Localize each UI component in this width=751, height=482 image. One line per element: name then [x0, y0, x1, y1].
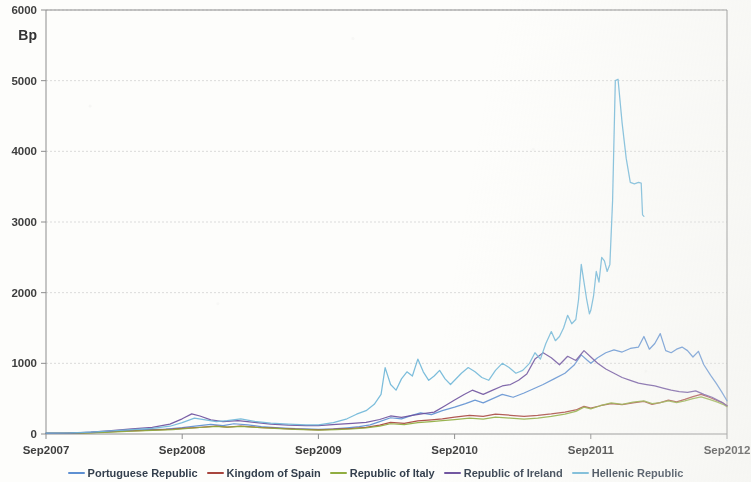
y-tick-label: 4000: [11, 145, 37, 157]
x-tick-label: Sep2010: [431, 444, 478, 456]
legend-color-swatch: [68, 472, 85, 475]
legend-item-label: Republic of Italy: [350, 467, 435, 479]
x-tick-label: Sep2011: [568, 444, 615, 456]
y-tick-label: 5000: [11, 75, 37, 87]
y-axis-unit-label: Bp: [18, 27, 37, 43]
legend-item-kingdom-of-spain[interactable]: Kingdom of Spain: [207, 467, 321, 479]
y-tick-label: 2000: [11, 287, 37, 299]
legend-item-portuguese-republic[interactable]: Portuguese Republic: [68, 467, 198, 479]
legend-item-label: Hellenic Republic: [592, 467, 684, 479]
y-tick-label: 0: [31, 428, 37, 440]
chart-plot-area: 0100020003000400050006000BpSep2007Sep200…: [0, 0, 751, 482]
legend-color-swatch: [207, 472, 224, 475]
sovereign-cds-spread-chart: 0100020003000400050006000BpSep2007Sep200…: [0, 0, 751, 482]
legend-item-label: Kingdom of Spain: [227, 467, 321, 479]
legend-item-label: Portuguese Republic: [88, 467, 198, 479]
y-tick-label: 3000: [11, 216, 37, 228]
chart-legend: Portuguese RepublicKingdom of SpainRepub…: [0, 467, 751, 479]
legend-item-label: Republic of Ireland: [464, 467, 563, 479]
x-tick-label: Sep2009: [295, 444, 342, 456]
legend-item-republic-of-ireland[interactable]: Republic of Ireland: [444, 467, 563, 479]
y-tick-label: 6000: [11, 4, 37, 16]
legend-item-republic-of-italy[interactable]: Republic of Italy: [330, 467, 435, 479]
series-line-hellenic-republic: [46, 79, 644, 433]
series-line-portuguese-republic: [46, 334, 727, 434]
x-tick-label: Sep2007: [23, 444, 70, 456]
y-tick-label: 1000: [11, 357, 37, 369]
legend-color-swatch: [572, 472, 589, 475]
legend-color-swatch: [330, 472, 347, 475]
legend-color-swatch: [444, 472, 461, 475]
legend-item-hellenic-republic[interactable]: Hellenic Republic: [572, 467, 684, 479]
x-tick-label: Sep2012: [704, 444, 751, 456]
x-tick-label: Sep2008: [159, 444, 206, 456]
